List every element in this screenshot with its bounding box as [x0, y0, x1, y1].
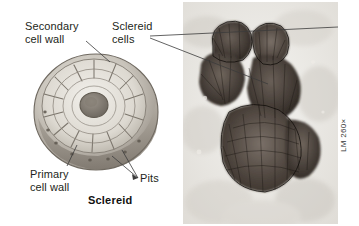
label-primary-cell-wall: Primary cell wall	[30, 168, 69, 194]
label-pits: Pits	[140, 172, 159, 185]
label-sclereid-cells: Sclereid cells	[112, 20, 153, 46]
label-secondary-cell-wall: Secondary cell wall	[25, 20, 79, 46]
sclereid-illustration	[28, 48, 168, 176]
figure-sclereid: LM 260× Secondary cell wall Sclereid cel…	[0, 0, 359, 226]
magnification-label: LM 260×	[339, 119, 348, 152]
sclereid-micrograph	[183, 2, 338, 224]
caption-sclereid: Sclereid	[88, 194, 132, 206]
